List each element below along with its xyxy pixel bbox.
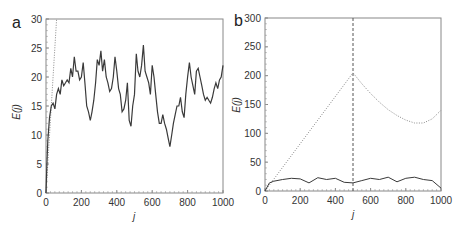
panel-a-letter: a [12, 14, 21, 31]
y-tick-label: 300 [244, 13, 261, 24]
x-tick-label: 800 [179, 197, 196, 208]
panel-a-solid-line [46, 45, 223, 193]
x-tick-label: 0 [262, 195, 268, 206]
y-tick-label: 10 [31, 130, 43, 141]
y-tick-label: 0 [255, 186, 261, 197]
x-tick-label: 0 [43, 197, 49, 208]
panel-a-x-axis-title: j [131, 211, 136, 222]
panel-b-y-axis-title: E(j) [231, 97, 242, 113]
panel-b-letter: b [234, 12, 243, 29]
y-tick-label: 30 [31, 14, 43, 25]
panel-a-plot-frame [46, 19, 223, 193]
y-tick-label: 25 [31, 43, 43, 54]
panel-a-minor-ticks [46, 19, 223, 193]
figure: a 051015202530 02004006008001000 E(j) j … [0, 0, 464, 225]
panel-b-x-axis-title: j [350, 209, 355, 220]
y-tick-label: 15 [31, 101, 43, 112]
x-tick-label: 400 [108, 197, 125, 208]
x-tick-label: 1000 [430, 195, 453, 206]
x-tick-label: 600 [362, 195, 379, 206]
y-tick-label: 50 [250, 157, 262, 168]
x-tick-label: 200 [292, 195, 309, 206]
panel-a: a 051015202530 02004006008001000 E(j) j [11, 14, 235, 223]
y-tick-label: 20 [31, 72, 43, 83]
x-tick-label: 1000 [212, 197, 235, 208]
y-tick-label: 150 [244, 99, 261, 110]
panel-b: b 050100150200250300 02004006008001000 E… [231, 12, 453, 220]
y-tick-label: 100 [244, 128, 261, 139]
y-tick-label: 200 [244, 70, 261, 81]
panel-a-y-axis-title: E(j) [11, 104, 22, 120]
y-tick-label: 5 [36, 159, 42, 170]
x-tick-label: 200 [73, 197, 90, 208]
panel-b-y-axis: 050100150200250300 [244, 13, 268, 197]
y-tick-label: 0 [36, 188, 42, 199]
x-tick-label: 600 [144, 197, 161, 208]
x-tick-label: 800 [397, 195, 414, 206]
y-tick-label: 250 [244, 41, 261, 52]
x-tick-label: 400 [327, 195, 344, 206]
